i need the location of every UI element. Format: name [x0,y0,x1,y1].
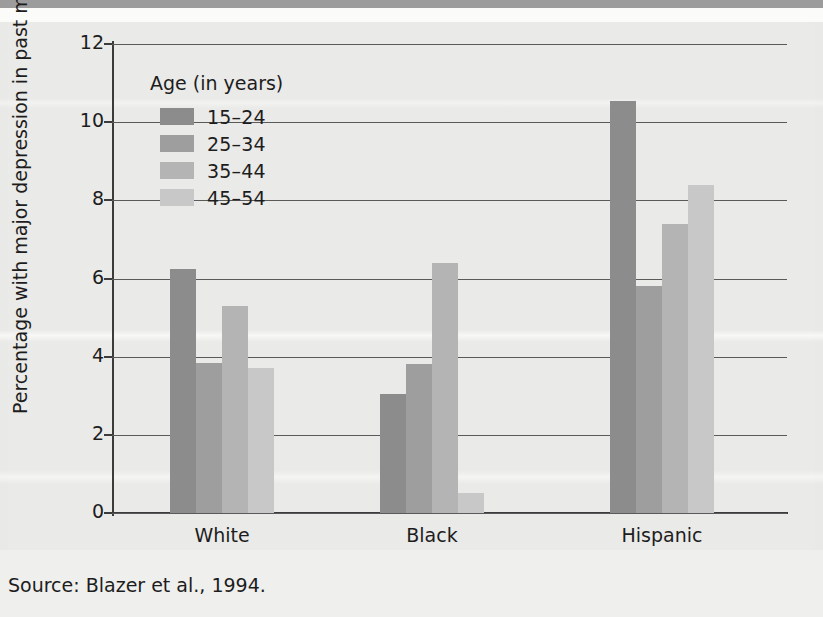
bar [170,269,196,513]
legend-title: Age (in years) [148,72,363,94]
legend-swatch [160,189,194,206]
source-note: Source: Blazer et al., 1994. [8,574,266,596]
bar [406,364,432,513]
y-axis-title: Percentage with major depression in past… [9,0,31,418]
bar [248,368,274,513]
y-axis-tick-label: 12 [64,31,104,53]
legend: Age (in years) 15–2425–3435–4445–54 [148,72,363,211]
y-axis-tick [104,121,112,123]
page-top-band [0,0,823,8]
y-axis-tick [104,434,112,436]
y-axis-tick-label: 2 [64,422,104,444]
bar [458,493,484,513]
legend-item-label: 45–54 [207,187,266,209]
x-axis-tick-label: Hispanic [592,524,732,546]
bar [196,363,222,513]
y-axis-tick-label: 10 [64,109,104,131]
y-axis-tick [104,43,112,45]
y-axis-tick [104,278,112,280]
y-axis-tick-label: 4 [64,344,104,366]
bar [380,394,406,513]
legend-swatch [160,135,194,152]
y-axis-tick [104,512,112,514]
bar [222,306,248,513]
y-axis-tick-label: 8 [64,187,104,209]
gridline [112,513,787,514]
legend-item-label: 15–24 [207,106,266,128]
legend-items: 15–2425–3435–4445–54 [148,103,363,211]
legend-item-label: 25–34 [207,133,266,155]
legend-item-label: 35–44 [207,160,266,182]
y-axis-tick [104,356,112,358]
legend-item: 35–44 [148,157,363,184]
gridline [112,44,787,45]
y-axis-tick-label: 0 [64,500,104,522]
bar [688,185,714,513]
figure-page: Percentage with major depression in past… [0,0,823,617]
legend-item: 45–54 [148,184,363,211]
y-axis-tick [104,199,112,201]
bar [610,101,636,513]
bar [636,286,662,513]
legend-item: 15–24 [148,103,363,130]
legend-item: 25–34 [148,130,363,157]
bar [662,224,688,513]
y-axis-tick-label: 6 [64,266,104,288]
x-axis-tick-label: White [152,524,292,546]
x-axis-tick-label: Black [362,524,502,546]
page-top-gap [0,8,823,22]
bar [432,263,458,513]
legend-swatch [160,108,194,125]
legend-swatch [160,162,194,179]
